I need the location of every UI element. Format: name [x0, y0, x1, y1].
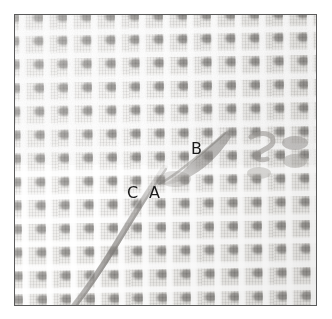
- label-c: C: [127, 185, 138, 201]
- film-grain-layer: [15, 15, 315, 165]
- micrograph-image: C A B: [15, 15, 316, 305]
- label-a: A: [149, 185, 160, 201]
- label-b: B: [191, 141, 202, 157]
- figure-root: C A B: [0, 0, 332, 319]
- image-panel: C A B: [14, 14, 317, 306]
